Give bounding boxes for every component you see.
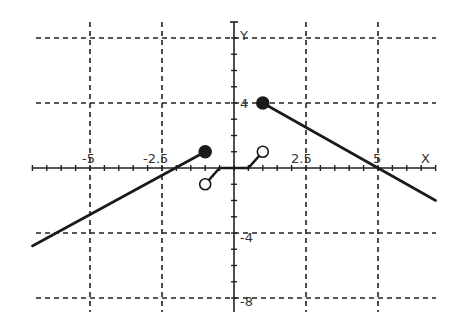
y-tick-label-4: 4 <box>240 96 248 111</box>
filled-dot-marker <box>199 146 211 158</box>
y-tick-label-neg4: -4 <box>240 230 253 245</box>
piecewise-function-graph: X Y -5 -2.5 2.5 5 4 -4 -8 <box>0 0 458 326</box>
open-dot-marker <box>200 179 211 190</box>
x-tick-label-5: 5 <box>373 151 381 166</box>
x-tick-label-neg2-5: -2.5 <box>143 151 168 166</box>
filled-dot-marker <box>257 97 269 109</box>
x-axis-label: X <box>421 151 430 166</box>
open-dot-marker <box>257 146 268 157</box>
right-piece-line <box>263 103 436 201</box>
x-tick-label-neg5: -5 <box>82 151 95 166</box>
y-axis-label: Y <box>239 28 248 43</box>
y-tick-label-neg8: -8 <box>240 294 253 309</box>
x-tick-label-2-5: 2.5 <box>291 151 312 166</box>
